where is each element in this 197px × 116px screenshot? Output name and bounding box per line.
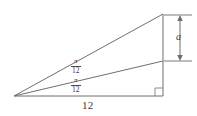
fraction-lower-denominator: 12 [71, 86, 81, 94]
fraction-lower: π 12 [71, 77, 81, 94]
fraction-lower-numerator: π [71, 77, 81, 84]
upper-hypotenuse-line [14, 14, 163, 96]
fraction-upper-numerator: π [71, 58, 81, 65]
triangle-diagram-svg [0, 0, 197, 116]
angle-label-lower: π 12 [71, 76, 81, 94]
fraction-upper: π 12 [71, 58, 81, 75]
base-length-label: 12 [82, 100, 94, 111]
angle-label-upper: π 12 [71, 57, 81, 75]
right-angle-marker [155, 88, 163, 96]
geometry-figure: v v π 12 π 12 12 [0, 0, 197, 116]
height-length-label: a [176, 32, 181, 42]
dimension-arrowhead-up [177, 15, 183, 21]
fraction-upper-denominator: 12 [71, 67, 81, 75]
dimension-arrowhead-down [177, 55, 183, 61]
lower-hypotenuse-line [14, 61, 163, 96]
